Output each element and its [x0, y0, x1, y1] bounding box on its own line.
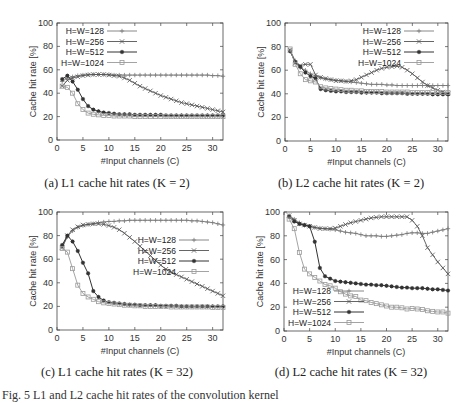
legend-label: H=W=256: [138, 246, 177, 256]
x-tick-label: 0: [281, 334, 286, 344]
y-tick-label: 0: [276, 136, 281, 146]
x-tick-label: 10: [330, 334, 340, 344]
chart-panel-a: 051015202530020406080100#Input channels …: [0, 0, 234, 190]
y-tick-label: 60: [43, 254, 53, 264]
x-tick-label: 30: [433, 334, 443, 344]
y-tick-label: 80: [43, 231, 53, 241]
y-tick-label: 100: [38, 18, 53, 28]
chart-panel-b: 051015202530020406080100#Input channels …: [234, 0, 468, 190]
legend-label: H=W=512: [66, 47, 105, 57]
legend: H=W=128H=W=256H=W=512H=W=1024: [133, 235, 209, 277]
y-tick-label: 100: [265, 207, 280, 217]
x-tick-label: 20: [381, 334, 391, 344]
x-axis-label: #Input channels (C): [101, 156, 180, 166]
x-tick-label: 5: [308, 144, 313, 154]
x-tick-label: 15: [130, 143, 140, 153]
chart-panel-c: 051015202530020406080100#Input channels …: [0, 195, 234, 385]
x-tick-label: 0: [282, 144, 287, 154]
legend-label: H=W=512: [293, 307, 332, 317]
y-tick-label: 0: [48, 135, 53, 145]
x-tick-label: 5: [307, 334, 312, 344]
y-tick-label: 80: [271, 42, 281, 52]
legend-label: H=W=256: [363, 37, 402, 47]
x-axis-label: #Input channels (C): [327, 347, 406, 357]
x-axis-label: #Input channels (C): [327, 157, 406, 167]
x-tick-label: 15: [356, 334, 366, 344]
x-tick-label: 0: [54, 143, 59, 153]
x-tick-label: 15: [356, 144, 366, 154]
legend: H=W=128H=W=256H=W=512H=W=1024: [288, 286, 364, 328]
legend-label: H=W=1024: [133, 267, 176, 277]
chart-b: 051015202530020406080100#Input channels …: [234, 0, 468, 175]
legend-label: H=W=1024: [288, 318, 331, 328]
y-tick-label: 20: [43, 301, 53, 311]
x-tick-label: 25: [182, 333, 192, 343]
y-tick-label: 40: [43, 88, 53, 98]
y-tick-label: 20: [43, 112, 53, 122]
y-axis-label: Cache hit rate [%]: [28, 235, 38, 307]
y-tick-label: 100: [266, 18, 281, 28]
legend-label: H=W=128: [66, 26, 105, 36]
x-tick-label: 15: [130, 333, 140, 343]
x-tick-label: 30: [433, 144, 443, 154]
legend-label: H=W=128: [138, 235, 177, 245]
chart-d: 051015202530020406080100#Input channels …: [234, 195, 468, 365]
legend: H=W=128H=W=256H=W=512H=W=1024: [61, 26, 137, 68]
x-tick-label: 20: [156, 333, 166, 343]
x-tick-label: 25: [182, 143, 192, 153]
y-tick-label: 20: [270, 302, 280, 312]
x-tick-label: 30: [208, 333, 218, 343]
chart-c: 051015202530020406080100#Input channels …: [0, 195, 234, 365]
legend-label: H=W=512: [138, 256, 177, 266]
legend-label: H=W=256: [293, 297, 332, 307]
figure-caption: Fig. 5 L1 and L2 cache hit rates of the …: [2, 388, 279, 403]
caption-c: (c) L1 cache hit rates (K = 32): [0, 365, 234, 380]
x-tick-label: 20: [156, 143, 166, 153]
series-h-w-256: [287, 213, 450, 276]
y-tick-label: 60: [43, 65, 53, 75]
x-tick-label: 20: [382, 144, 392, 154]
series-h-w-512: [287, 215, 450, 293]
x-tick-label: 5: [80, 333, 85, 343]
legend-label: H=W=512: [363, 47, 402, 57]
y-tick-label: 100: [38, 207, 53, 217]
legend-label: H=W=128: [363, 26, 402, 36]
x-axis-label: #Input channels (C): [101, 346, 180, 356]
chart-panel-d: 051015202530020406080100#Input channels …: [234, 195, 468, 385]
x-tick-label: 10: [104, 143, 114, 153]
y-tick-label: 80: [270, 231, 280, 241]
y-axis-label: Cache hit rate [%]: [256, 46, 266, 118]
y-axis-label: Cache hit rate [%]: [28, 46, 38, 118]
caption-a: (a) L1 cache hit rates (K = 2): [0, 176, 234, 191]
y-tick-label: 0: [275, 326, 280, 336]
y-tick-label: 0: [48, 325, 53, 335]
chart-a: 051015202530020406080100#Input channels …: [0, 0, 234, 175]
y-tick-label: 60: [271, 65, 281, 75]
x-tick-label: 10: [104, 333, 114, 343]
legend: H=W=128H=W=256H=W=512H=W=1024: [358, 26, 434, 68]
y-tick-label: 40: [270, 278, 280, 288]
y-tick-label: 40: [271, 89, 281, 99]
x-tick-label: 25: [407, 144, 417, 154]
x-tick-label: 30: [208, 143, 218, 153]
x-tick-label: 10: [331, 144, 341, 154]
x-tick-label: 0: [54, 333, 59, 343]
x-tick-label: 25: [407, 334, 417, 344]
legend-label: H=W=1024: [61, 58, 104, 68]
y-tick-label: 60: [270, 255, 280, 265]
caption-d: (d) L2 cache hit rates (K = 32): [234, 365, 468, 380]
x-tick-label: 5: [80, 143, 85, 153]
y-tick-label: 20: [271, 112, 281, 122]
y-axis-label: Cache hit rate [%]: [255, 236, 265, 308]
legend-label: H=W=1024: [358, 58, 401, 68]
y-tick-label: 80: [43, 41, 53, 51]
y-tick-label: 40: [43, 278, 53, 288]
caption-b: (b) L2 cache hit rates (K = 2): [234, 176, 468, 191]
legend-label: H=W=128: [293, 286, 332, 296]
legend-label: H=W=256: [66, 37, 105, 47]
